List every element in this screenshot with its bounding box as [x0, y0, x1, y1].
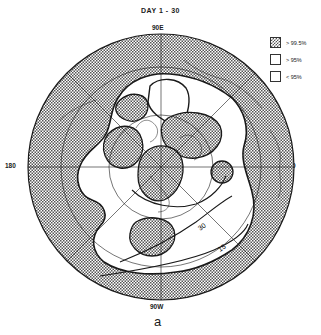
hatched-lobe-south: [130, 218, 175, 256]
polar-map: 30 15: [0, 0, 321, 335]
hatched-cell-east: [211, 161, 233, 183]
